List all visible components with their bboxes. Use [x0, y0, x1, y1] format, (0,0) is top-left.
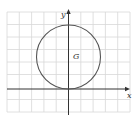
- coordinate-plane-diagram: x y G: [0, 0, 138, 119]
- y-axis-label: y: [60, 10, 66, 19]
- y-axis-arrow-icon: [66, 9, 70, 14]
- region-label: G: [73, 52, 80, 61]
- x-axis-label: x: [127, 91, 132, 100]
